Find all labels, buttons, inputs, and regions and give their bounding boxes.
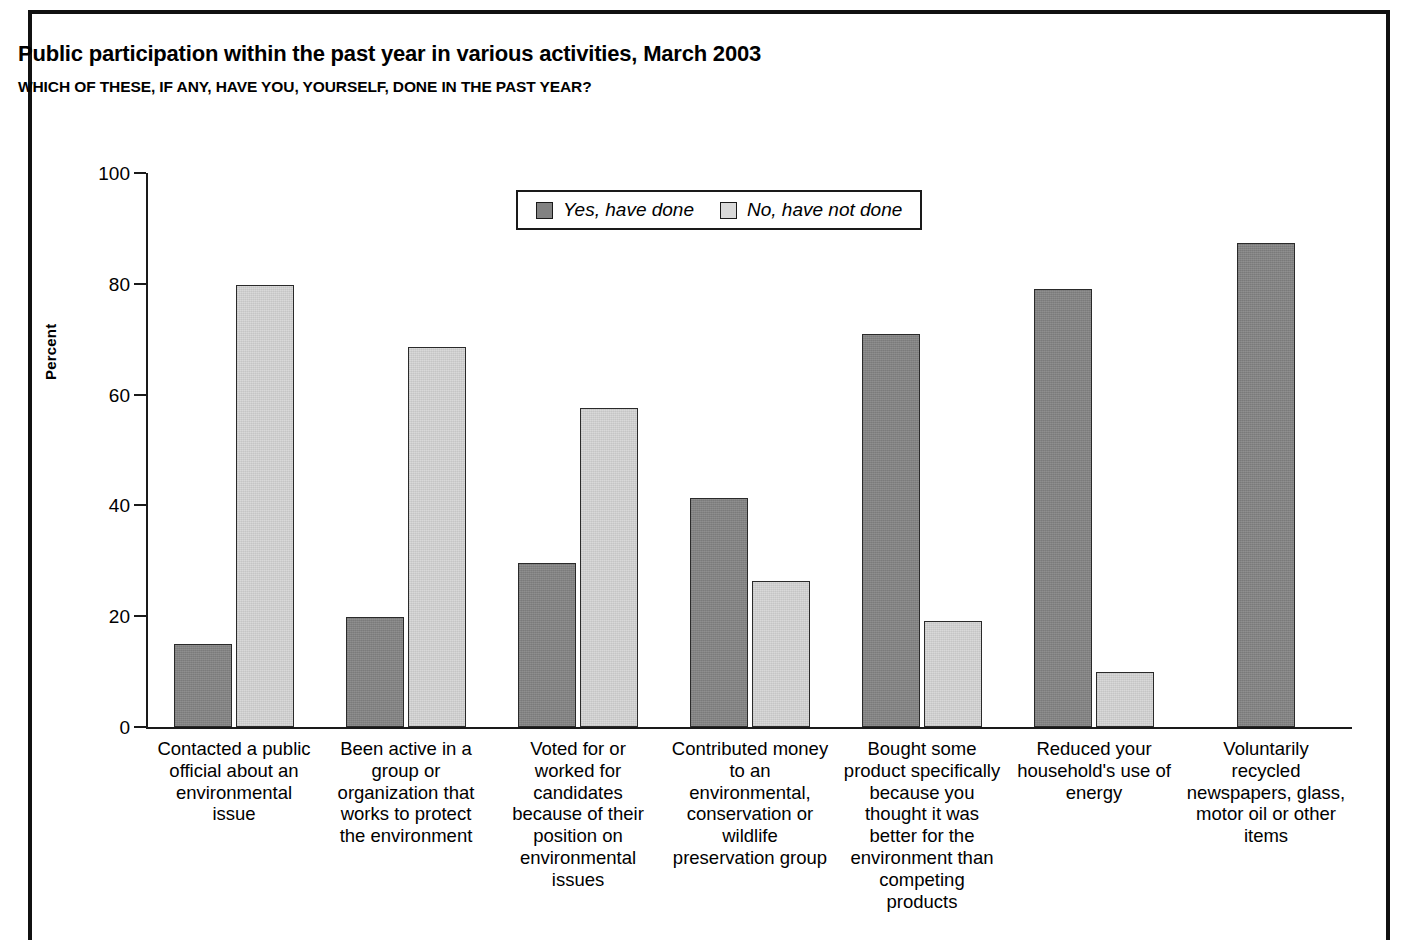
category-label-line: Bought some: [830, 738, 1014, 760]
y-tick-label: 0: [82, 718, 130, 737]
y-tick-mark: [134, 172, 146, 174]
y-tick-mark: [134, 283, 146, 285]
chart-title: Public participation within the past yea…: [18, 42, 1298, 66]
bar-group: [492, 173, 664, 727]
category-label-line: items: [1174, 825, 1358, 847]
y-tick-label: 100: [82, 164, 130, 183]
bar-yes: [346, 617, 404, 727]
category-label-line: recycled: [1174, 760, 1358, 782]
y-axis-title: Percent: [42, 324, 59, 380]
bar-yes: [862, 334, 920, 727]
category-label-line: environment than: [830, 847, 1014, 869]
x-axis-category-label: Contributed moneyto anenvironmental,cons…: [658, 738, 842, 869]
category-label-line: Been active in a: [314, 738, 498, 760]
x-axis-category-label: Been active in agroup ororganization tha…: [314, 738, 498, 847]
y-tick-label: 40: [82, 496, 130, 515]
category-label-line: household's use of: [1002, 760, 1186, 782]
plot-area: 020406080100: [148, 173, 1352, 727]
y-tick-label: 60: [82, 386, 130, 405]
x-axis-line: [146, 727, 1352, 729]
category-label-line: Contacted a public: [142, 738, 326, 760]
legend-label-yes: Yes, have done: [563, 199, 694, 221]
category-label-line: wildlife: [658, 825, 842, 847]
category-label-line: Contributed money: [658, 738, 842, 760]
bar-group: [664, 173, 836, 727]
bar-yes: [1237, 243, 1295, 727]
x-axis-category-label: Voluntarilyrecyclednewspapers, glass,mot…: [1174, 738, 1358, 847]
bar-yes: [690, 498, 748, 727]
bar-yes: [518, 563, 576, 727]
x-axis-category-label: Contacted a publicofficial about anenvir…: [142, 738, 326, 825]
category-label-line: position on: [486, 825, 670, 847]
legend-swatch-yes-icon: [536, 202, 553, 219]
x-axis-category-label: Bought someproduct specificallybecause y…: [830, 738, 1014, 913]
category-label-line: better for the: [830, 825, 1014, 847]
y-tick-label: 20: [82, 607, 130, 626]
category-label-line: environmental: [486, 847, 670, 869]
bar-no: [1096, 672, 1154, 727]
category-label-line: organization that: [314, 782, 498, 804]
category-label-line: Reduced your: [1002, 738, 1186, 760]
bar-yes: [174, 644, 232, 727]
bar-group: [1008, 173, 1180, 727]
category-label-line: works to protect: [314, 803, 498, 825]
category-label-line: the environment: [314, 825, 498, 847]
bar-no: [408, 347, 466, 727]
legend-entry-yes: Yes, have done: [536, 199, 694, 221]
category-label-line: preservation group: [658, 847, 842, 869]
bar-group: [1180, 173, 1352, 727]
bar-group: [836, 173, 1008, 727]
category-label-line: group or: [314, 760, 498, 782]
category-label-line: product specifically: [830, 760, 1014, 782]
category-label-line: motor oil or other: [1174, 803, 1358, 825]
category-label-line: issues: [486, 869, 670, 891]
y-tick-mark: [134, 615, 146, 617]
category-label-line: energy: [1002, 782, 1186, 804]
bar-no: [580, 408, 638, 727]
category-label-line: products: [830, 891, 1014, 913]
bar-no: [752, 581, 810, 727]
y-tick-mark: [134, 726, 146, 728]
category-label-line: conservation or: [658, 803, 842, 825]
y-tick-mark: [134, 394, 146, 396]
category-label-line: newspapers, glass,: [1174, 782, 1358, 804]
bar-yes: [1034, 289, 1092, 727]
x-axis-category-label: Voted for orworked forcandidatesbecause …: [486, 738, 670, 891]
category-label-line: official about an: [142, 760, 326, 782]
bar-no: [924, 621, 982, 727]
y-tick-mark: [134, 504, 146, 506]
category-label-line: because you: [830, 782, 1014, 804]
category-label-line: issue: [142, 803, 326, 825]
category-label-line: Voted for or: [486, 738, 670, 760]
category-label-line: thought it was: [830, 803, 1014, 825]
chart-legend: Yes, have done No, have not done: [516, 190, 922, 230]
category-label-line: environmental: [142, 782, 326, 804]
title-block: Public participation within the past yea…: [18, 42, 1298, 96]
bar-group: [148, 173, 320, 727]
category-label-line: because of their: [486, 803, 670, 825]
legend-entry-no: No, have not done: [720, 199, 902, 221]
bar-no: [236, 285, 294, 727]
category-label-line: environmental,: [658, 782, 842, 804]
x-axis-category-label: Reduced yourhousehold's use ofenergy: [1002, 738, 1186, 803]
chart-subtitle: WHICH OF THESE, IF ANY, HAVE YOU, YOURSE…: [18, 78, 1298, 96]
category-label-line: competing: [830, 869, 1014, 891]
category-label-line: Voluntarily: [1174, 738, 1358, 760]
bar-group: [320, 173, 492, 727]
y-tick-label: 80: [82, 275, 130, 294]
category-label-line: candidates: [486, 782, 670, 804]
legend-swatch-no-icon: [720, 202, 737, 219]
legend-label-no: No, have not done: [747, 199, 902, 221]
category-label-line: worked for: [486, 760, 670, 782]
category-label-line: to an: [658, 760, 842, 782]
